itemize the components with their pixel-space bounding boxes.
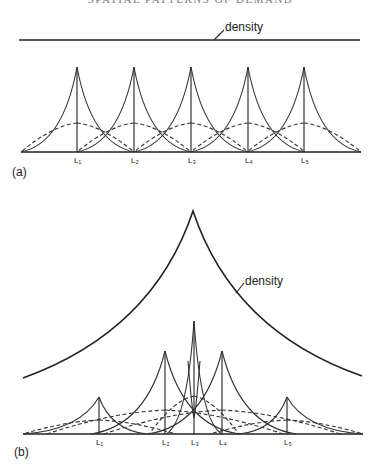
location-market-2: L₂ — [77, 67, 191, 165]
demand-curve-left — [134, 67, 191, 152]
location-market-3: L₃ — [149, 321, 239, 447]
demand-curve-left — [77, 67, 134, 152]
demand-curve-right — [222, 351, 296, 434]
panel-b: densityL₁L₂L₃L₄L₅(b) — [14, 211, 363, 459]
potential-curve-left — [247, 123, 304, 152]
demand-curve-left — [21, 67, 77, 152]
panel-label-a: (a) — [12, 165, 27, 179]
location-label: L₁ — [96, 438, 103, 447]
potential-curve-right — [304, 123, 361, 152]
location-label: L₂ — [131, 156, 139, 165]
demand-curve-left — [91, 351, 165, 434]
demand-curve-right — [287, 397, 363, 434]
density-label: density — [245, 274, 283, 288]
location-label: L₃ — [191, 438, 199, 447]
demand-curve-right — [248, 67, 305, 152]
potential-curve-right — [77, 123, 134, 152]
potential-curve-right — [248, 123, 305, 152]
location-label: L₄ — [219, 438, 227, 447]
location-market-3: L₃ — [134, 67, 248, 165]
location-label: L₄ — [245, 156, 253, 165]
demand-diagram: densityL₁L₂L₃L₄L₅(a) densityL₁L₂L₃L₄L₅(b… — [0, 0, 381, 464]
demand-curve-right — [191, 67, 248, 152]
potential-curve-left — [77, 123, 134, 152]
location-market-5: L₅ — [247, 67, 361, 165]
demand-curve-left — [247, 67, 304, 152]
demand-curve-left — [23, 397, 99, 434]
demand-curve-right — [134, 67, 191, 152]
potential-curve-left — [191, 123, 248, 152]
demand-curve-left — [239, 397, 287, 434]
demand-curve-right — [304, 67, 361, 152]
potential-curve-left — [21, 123, 77, 152]
density-leader — [236, 283, 244, 293]
location-market-4: L₄ — [191, 67, 305, 165]
location-label: L₁ — [74, 156, 81, 165]
panel-label-b: (b) — [14, 445, 29, 459]
density-label: density — [225, 20, 263, 34]
potential-curve-right — [134, 123, 191, 152]
location-label: L₃ — [188, 156, 196, 165]
location-market-5: L₅ — [210, 397, 363, 447]
potential-curve-right — [191, 123, 248, 152]
demand-curve-left — [191, 67, 248, 152]
location-label: L₅ — [301, 156, 309, 165]
location-label: L₂ — [162, 438, 170, 447]
location-label: L₅ — [284, 438, 292, 447]
location-market-1: L₁ — [21, 67, 134, 165]
density-leader — [214, 30, 224, 40]
density-curve — [23, 211, 362, 378]
panel-a: densityL₁L₂L₃L₄L₅(a) — [12, 20, 361, 179]
demand-curve-right — [77, 67, 134, 152]
location-market-1: L₁ — [23, 397, 176, 447]
potential-curve-left — [134, 123, 191, 152]
